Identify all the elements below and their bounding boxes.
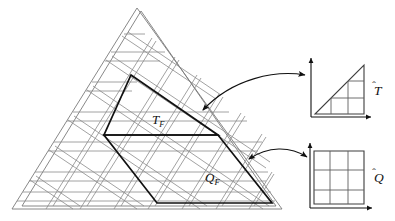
element-Q-F-label: QF — [205, 170, 220, 187]
t-hat-x-axis-arrowhead — [366, 115, 371, 120]
mesh-lines-right-family — [30, 32, 270, 209]
t-hat-grid — [331, 81, 364, 114]
q-hat-x-axis-arrowhead — [367, 206, 372, 211]
figure-svg: TF QF ̂T — [0, 0, 395, 221]
t-hat-label: ̂T — [372, 81, 383, 98]
q-hat-y-axis-arrowhead — [308, 143, 313, 148]
reference-element-Q-hat: ̂Q — [308, 143, 384, 210]
figure-root: TF QF ̂T — [0, 0, 395, 221]
q-hat-label: ̂Q — [372, 168, 384, 185]
mesh-outer-boundary — [12, 8, 282, 209]
element-T-F-label: TF — [152, 112, 165, 129]
triangular-finite-element-mesh: TF QF — [12, 8, 282, 209]
t-hat-outline — [315, 65, 364, 114]
q-hat-grid — [314, 151, 364, 204]
reference-element-T-hat: ̂T — [309, 58, 383, 119]
t-hat-y-axis-arrowhead — [309, 58, 314, 63]
q-hat-outline — [314, 151, 364, 204]
